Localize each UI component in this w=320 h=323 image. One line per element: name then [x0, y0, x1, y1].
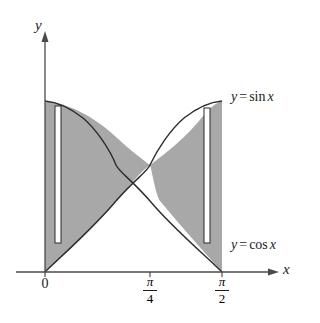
y-axis-label: y — [35, 18, 42, 33]
fraction-denominator: 4 — [137, 291, 163, 307]
sine-label-equals: = — [237, 89, 249, 104]
sine-label-argument: x — [265, 89, 273, 104]
x-tick-label-pi-over-2: π 2 — [209, 275, 235, 307]
cosine-label-function: cos — [249, 237, 268, 252]
cosine-curve-label: y=cosx — [231, 238, 276, 252]
sine-curve-label: y=sinx — [231, 90, 274, 104]
riemann-strip-left — [55, 106, 61, 243]
fraction-numerator: π — [209, 275, 235, 290]
cosine-label-equals: = — [237, 237, 249, 252]
sine-label-function: sin — [249, 89, 265, 104]
riemann-strip-right — [204, 108, 210, 243]
fraction-denominator: 2 — [209, 291, 235, 307]
x-tick-label-zero: 0 — [38, 277, 52, 291]
x-axis-label: x — [283, 262, 290, 277]
cosine-label-argument: x — [268, 237, 276, 252]
fraction-numerator: π — [137, 275, 163, 290]
x-tick-label-pi-over-4: π 4 — [137, 275, 163, 307]
